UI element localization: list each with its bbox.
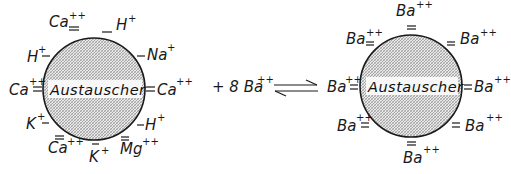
equilibrium-arrow-icon [274,80,318,96]
left-ion-mg: Mg ++ [120,136,159,158]
svg-text:+: + [167,42,175,53]
svg-text:H: H [145,116,156,134]
right-exchanger: Austauscher Ba ++ Ba ++ Ba ++ Ba ++ Ba [327,0,511,167]
svg-text:++: ++ [416,0,433,10]
right-ion-ba-top: Ba ++ [396,0,433,29]
right-ion-ba-right: Ba ++ [464,74,511,96]
left-ion-k-bottom: K + [89,144,109,166]
svg-text:++: ++ [29,76,46,87]
reagent-label: + 8 Ba [212,78,263,96]
svg-text:++: ++ [345,74,362,85]
right-center-label: Austauscher [367,79,464,95]
left-ion-ca-left: Ca ++ [9,76,46,99]
svg-text:H: H [27,48,38,66]
svg-text:Ba: Ba [403,149,422,167]
svg-text:+: + [128,13,136,24]
svg-text:Na: Na [147,46,167,64]
svg-text:K: K [26,115,37,133]
reagent-barium: + 8 Ba ++ [212,74,274,96]
svg-text:+: + [38,44,46,55]
svg-text:Ca: Ca [49,13,69,31]
left-exchanger: Austauscher Ca ++ H + Na + Ca ++ H [9,10,193,166]
right-ion-ba-upper-right: Ba ++ [447,27,497,48]
svg-text:Ca: Ca [9,81,29,99]
svg-text:+: + [37,111,45,122]
svg-text:++: ++ [423,144,440,155]
svg-text:Mg: Mg [120,140,142,158]
svg-text:++: ++ [494,74,511,85]
right-ion-ba-lower-left: Ba ++ [337,112,373,135]
svg-text:H: H [116,16,127,34]
svg-text:++: ++ [176,76,193,87]
svg-text:++: ++ [356,112,373,123]
left-ion-h-right: H + [137,112,165,134]
ion-exchange-diagram: Austauscher Ca ++ H + Na + Ca ++ H [0,0,511,174]
left-ion-k-left: K + [26,111,49,133]
svg-text:Ba: Ba [346,30,365,48]
reagent-charge: ++ [257,74,274,85]
svg-text:K: K [89,148,100,166]
svg-text:Ca: Ca [48,139,68,157]
left-ion-h-left: H + [27,44,50,66]
left-ion-h-top: H + [102,13,136,34]
svg-text:++: ++ [486,112,503,123]
right-ion-ba-upper-left: Ba ++ [346,27,383,48]
right-ion-ba-lower-right: Ba ++ [452,112,503,135]
svg-text:Ba: Ba [396,2,415,20]
svg-text:Ca: Ca [157,81,177,99]
svg-text:+: + [101,145,109,156]
left-ion-ca-top: Ca ++ [49,10,86,31]
svg-text:Ba: Ba [327,78,346,96]
svg-text:++: ++ [142,136,159,147]
left-ion-ca-right: Ca ++ [146,76,193,99]
svg-text:++: ++ [69,10,86,21]
svg-text:+: + [157,112,165,123]
svg-text:Ba: Ba [474,78,493,96]
svg-text:Ba: Ba [337,117,356,135]
left-ion-ca-bottom: Ca ++ [48,136,84,157]
right-ion-ba-left: Ba ++ [327,74,362,96]
svg-text:Ba: Ba [460,30,479,48]
left-center-label: Austauscher [49,82,146,98]
svg-text:++: ++ [366,27,383,38]
left-ion-na: Na + [137,42,175,64]
right-ion-ba-bottom: Ba ++ [403,142,440,167]
svg-text:Ba: Ba [465,117,484,135]
svg-text:++: ++ [480,27,497,38]
svg-text:++: ++ [67,136,84,147]
